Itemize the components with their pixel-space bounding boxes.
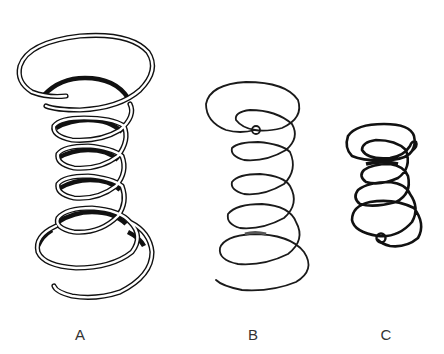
- label-spring-c: C: [376, 326, 396, 343]
- spring-a-icon: [19, 35, 152, 297]
- spring-c-icon: [347, 124, 422, 246]
- spring-figure: A B C: [0, 0, 444, 354]
- label-spring-a: A: [70, 326, 90, 343]
- label-spring-b: B: [243, 326, 263, 343]
- spring-b-icon: [206, 82, 309, 290]
- springs-drawing: [0, 0, 444, 354]
